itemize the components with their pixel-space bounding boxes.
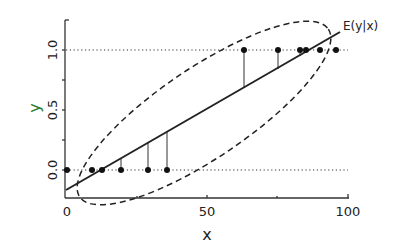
regression-line-label: E(y|x)	[343, 19, 378, 33]
x-tick-label-0: 0	[63, 204, 71, 219]
data-point	[145, 167, 151, 173]
data-points	[64, 47, 339, 173]
data-point	[303, 47, 309, 53]
x-tick-label-100: 100	[336, 204, 361, 219]
data-point	[297, 47, 303, 53]
reference-lines	[66, 50, 348, 170]
data-point	[164, 167, 170, 173]
y-axis-label: y	[25, 103, 44, 112]
data-point	[333, 47, 339, 53]
data-point	[317, 47, 323, 53]
data-point	[64, 167, 70, 173]
residual-segments	[121, 50, 300, 170]
data-point	[241, 47, 247, 53]
y-tick-label-05: 0.5	[45, 100, 60, 121]
data-point	[89, 167, 95, 173]
concentration-ellipse	[54, 0, 353, 234]
x-axis-label: x	[202, 225, 211, 244]
data-point	[275, 47, 281, 53]
y-tick-label-1: 1.0	[45, 40, 60, 61]
data-point	[99, 167, 105, 173]
y-tick-label-0: 0.0	[45, 160, 60, 181]
x-tick-label-50: 50	[199, 204, 216, 219]
linear-probability-chart: 0 50 100 1.0 0.5 0.0 x y E(y|x)	[0, 0, 403, 248]
data-point	[118, 167, 124, 173]
